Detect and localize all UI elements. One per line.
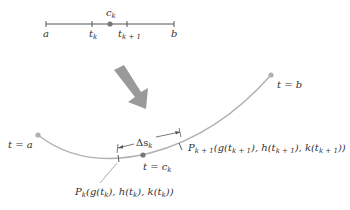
delta-s-right-head [175, 131, 180, 135]
c-k-dot [107, 21, 112, 26]
label-t-k1: tk + 1 [118, 28, 141, 41]
arc-length-diagram: a tk ck tk + 1 b Δsk t = a t = b t = ck … [0, 0, 350, 210]
p-k-tick [118, 155, 119, 162]
p-k1-tick [179, 143, 182, 150]
label-t-equals-a: t = a [8, 139, 33, 150]
end-point [268, 72, 273, 77]
curve-path [38, 75, 271, 158]
parameter-number-line: a tk ck tk + 1 b [43, 7, 177, 41]
delta-s-left-head [118, 145, 123, 149]
label-t-k: tk [89, 28, 97, 41]
delta-s-left-bar [117, 144, 118, 153]
start-point [35, 132, 40, 137]
p-k-leader [100, 163, 117, 183]
label-b: b [171, 28, 177, 39]
label-t-equals-b: t = b [277, 79, 302, 90]
label-c-k: ck [106, 7, 116, 20]
label-t-equals-c-k: t = ck [143, 161, 172, 174]
mapping-arrow-icon [114, 65, 148, 109]
label-a: a [43, 28, 49, 39]
delta-s-label: Δsk [136, 137, 153, 150]
c-k-point [140, 152, 145, 157]
label-p-k: Pk(g(tk), h(tk), k(tk)) [74, 186, 174, 199]
label-p-k1: Pk + 1(g(tk + 1), h(tk + 1), k(tk + 1)) [187, 142, 346, 155]
